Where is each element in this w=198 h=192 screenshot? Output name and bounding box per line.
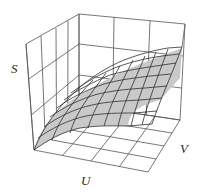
v-axis-label: V xyxy=(180,142,188,155)
u-axis-label: U xyxy=(81,174,90,187)
surface-plot xyxy=(0,0,198,192)
s-axis-label: S xyxy=(11,62,18,75)
